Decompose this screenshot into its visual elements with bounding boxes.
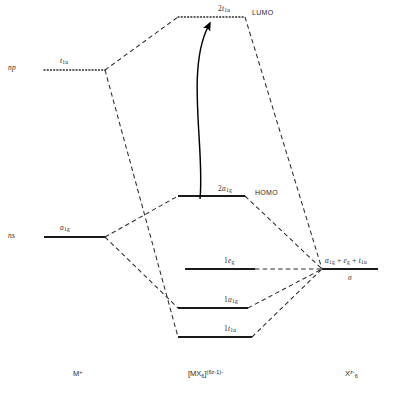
caption-ligand-set: Xz-6 — [345, 369, 358, 379]
label-metal-ns-symmetry: a1g — [60, 223, 70, 232]
corr-ns-to-1a1g — [105, 237, 178, 308]
label-mo-1eg: 1eg — [224, 256, 234, 265]
corr-1t1u-to-sigma — [252, 269, 322, 337]
caption-complex-ion: [MX6](6z-1)- — [188, 369, 223, 379]
caption-metal-cation: M+ — [73, 369, 83, 378]
corr-1a1g-to-sigma — [248, 269, 322, 308]
corr-ns-to-2a1g — [105, 196, 178, 237]
label-metal-np-symmetry: t1u — [60, 56, 68, 65]
correlation-lines-group — [105, 17, 322, 337]
label-metal-ns-orbital: ns — [8, 231, 15, 240]
homo-lumo-transition-arrow — [197, 27, 208, 199]
label-lumo-tag: LUMO — [252, 9, 273, 16]
label-ligand-sigma-terms: a1g + eg + t1u — [325, 256, 367, 265]
label-homo-tag: HOMO — [255, 189, 278, 196]
corr-2t1u-to-sigma — [245, 17, 322, 269]
label-mo-1a1g: 1a1g — [224, 295, 238, 304]
label-mo-2a1g: 2a1g — [218, 184, 232, 193]
corr-np-to-2t1u — [105, 17, 178, 70]
mo-diagram-canvas: np t1u ns a1g 2t1u LUMO 2a1g HOMO 1eg 1a… — [0, 0, 400, 397]
label-mo-1t1u: 1t1u — [224, 324, 236, 333]
label-ligand-sigma-caption: σ — [348, 273, 352, 282]
label-metal-np-orbital: np — [8, 63, 16, 72]
label-mo-2t1u: 2t1u — [218, 4, 230, 13]
